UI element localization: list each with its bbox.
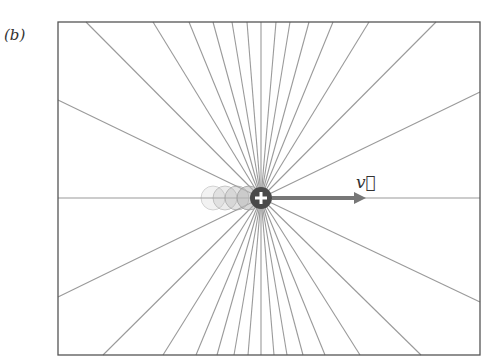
electric-field-diagram: v⃗ — [0, 0, 492, 363]
field-line — [189, 22, 261, 198]
field-line — [86, 22, 261, 198]
field-line — [261, 22, 290, 198]
field-lines — [58, 22, 480, 355]
field-line — [261, 198, 287, 355]
velocity-arrow — [272, 192, 366, 204]
field-line — [261, 198, 325, 355]
field-line — [261, 22, 333, 198]
diagram-frame — [58, 22, 480, 355]
field-line — [261, 22, 436, 198]
field-line — [232, 22, 261, 198]
field-line — [196, 198, 261, 355]
positive-charge — [250, 187, 272, 209]
velocity-label: v⃗ — [356, 172, 376, 192]
field-line — [103, 198, 261, 355]
field-line — [261, 198, 421, 355]
